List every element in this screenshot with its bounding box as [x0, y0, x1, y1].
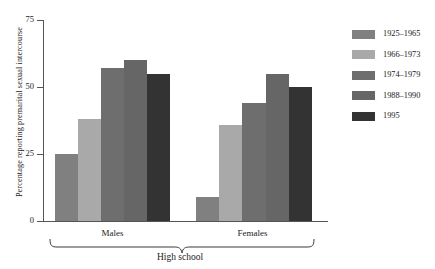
- legend-item-label: 1974–1979: [383, 70, 420, 80]
- y-axis-title: Percentage reporting premarital sexual i…: [13, 0, 27, 232]
- bar-chart-figure: Percentage reporting premarital sexual i…: [0, 0, 435, 269]
- y-axis-tick-0: [37, 221, 43, 222]
- y-axis-label-0: 0: [12, 216, 34, 225]
- bar-females-1988-1990: [266, 74, 289, 221]
- legend-item-label: 1995: [383, 111, 400, 121]
- bar-males-1988-1990: [124, 60, 147, 221]
- legend-item: 1974–1979: [352, 69, 435, 81]
- bar-males-1995: [147, 74, 170, 221]
- legend-item-label: 1966–1973: [383, 50, 420, 60]
- legend-item: 1995: [352, 110, 435, 122]
- y-axis-label-50: 50: [12, 82, 34, 91]
- legend-swatch-icon: [352, 71, 375, 80]
- bar-group-males: [55, 20, 170, 221]
- bar-males-1966-1973: [78, 119, 101, 221]
- legend-item: 1988–1990: [352, 90, 435, 102]
- legend-item: 1966–1973: [352, 49, 435, 61]
- bar-females-1966-1973: [219, 125, 242, 221]
- bar-males-1925-1965: [55, 154, 78, 221]
- y-axis-label-75: 75: [12, 15, 34, 24]
- x-axis-line: [43, 221, 328, 222]
- bar-group-females: [196, 20, 312, 221]
- y-axis-label-25: 25: [12, 149, 34, 158]
- bar-females-1995: [289, 87, 312, 221]
- legend-swatch-icon: [352, 91, 375, 100]
- bar-males-1974-1979: [101, 68, 124, 221]
- legend-item: 1925–1965: [352, 28, 435, 40]
- legend-swatch-icon: [352, 112, 375, 121]
- legend: 1925–19651966–19731974–19791988–19901995: [352, 28, 435, 131]
- bar-females-1974-1979: [242, 103, 265, 221]
- plot-area: [43, 20, 328, 221]
- bracket-label-high-school: High school: [110, 252, 250, 262]
- legend-swatch-icon: [352, 30, 375, 39]
- legend-swatch-icon: [352, 50, 375, 59]
- legend-item-label: 1988–1990: [383, 91, 420, 101]
- legend-item-label: 1925–1965: [383, 29, 420, 39]
- bar-females-1925-1965: [196, 197, 219, 221]
